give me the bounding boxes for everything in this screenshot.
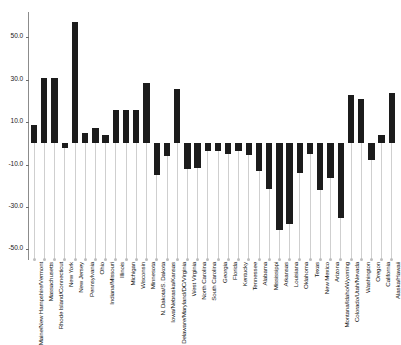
bar	[154, 143, 160, 175]
category-stem	[197, 168, 198, 260]
x-tick-label: Pennsylvania	[88, 262, 95, 297]
y-tick-label: 10.0	[11, 117, 23, 124]
category-stem-dot	[217, 258, 220, 261]
x-tick-label: Arizona	[333, 262, 340, 282]
category-stem	[95, 143, 96, 260]
y-tick-label: 30.0	[11, 75, 23, 82]
category-stem	[351, 143, 352, 260]
category-stem-dot	[186, 258, 189, 261]
category-stem	[167, 156, 168, 260]
x-tick-label: California	[384, 262, 391, 287]
bar	[338, 143, 344, 217]
category-stem	[330, 178, 331, 260]
y-tick-label: 50.0	[11, 32, 23, 39]
category-stem	[54, 143, 55, 260]
x-tick-label: Delaware/Maryland/DC/Virginia	[180, 262, 187, 344]
x-tick-label: Mississippi	[272, 262, 279, 290]
category-stem-dot	[125, 258, 128, 261]
x-tick-label: Alaska/Hawaii	[394, 262, 401, 299]
category-stem-dot	[155, 258, 158, 261]
x-tick-label: N. Dakota/S. Dakota	[159, 262, 166, 316]
category-stem-dot	[288, 258, 291, 261]
bar	[317, 143, 323, 190]
bar	[92, 128, 98, 144]
category-stem-dot	[298, 258, 301, 261]
category-stem	[228, 154, 229, 260]
x-tick-label: New York	[67, 262, 74, 287]
category-stem-dot	[278, 258, 281, 261]
bar	[113, 110, 119, 144]
category-stem-dot	[370, 258, 373, 261]
category-stem	[299, 173, 300, 260]
category-stem-dot	[176, 258, 179, 261]
category-stem-dot	[258, 258, 261, 261]
category-stem	[279, 230, 280, 260]
category-stem-dot	[74, 258, 77, 261]
category-stem	[115, 143, 116, 260]
x-tick-label: Alabama	[261, 262, 268, 285]
x-tick-label: Michigan	[129, 262, 136, 286]
category-stem-dot	[166, 258, 169, 261]
x-tick-label: Colorado/Utah/Nevada	[353, 262, 360, 322]
bar	[276, 143, 282, 230]
category-stem-dot	[390, 258, 393, 261]
category-stem-dot	[206, 258, 209, 261]
bar	[82, 133, 88, 144]
category-stem	[177, 143, 178, 260]
bar	[133, 110, 139, 144]
category-stem	[85, 143, 86, 260]
category-stem-dot	[33, 258, 36, 261]
bar	[297, 143, 303, 173]
x-tick-label: Wisconsin	[139, 262, 146, 289]
category-stem	[44, 143, 45, 260]
category-stem	[269, 189, 270, 260]
category-stem-dot	[227, 258, 230, 261]
bar	[235, 143, 241, 150]
x-tick-label: Ohio	[98, 262, 105, 274]
bar	[31, 125, 37, 143]
x-tick-label: Washington	[364, 262, 371, 293]
x-tick-label: Texas	[313, 262, 320, 277]
category-stem-dot	[350, 258, 353, 261]
category-stem-dot	[339, 258, 342, 261]
category-stem	[218, 151, 219, 260]
category-stem	[238, 151, 239, 260]
bar	[164, 143, 170, 156]
category-stem	[289, 224, 290, 260]
bar	[143, 83, 149, 143]
category-stem	[187, 169, 188, 260]
category-stem-dot	[135, 258, 138, 261]
category-stem	[75, 143, 76, 260]
category-stem-dot	[53, 258, 56, 261]
bar	[307, 143, 313, 154]
y-tick-label: -10.0	[8, 160, 23, 167]
bar	[327, 143, 333, 178]
category-stem-dot	[84, 258, 87, 261]
x-tick-label: Illinois	[118, 262, 125, 278]
bar	[358, 99, 364, 144]
bar	[174, 89, 180, 143]
y-tick-label: -30.0	[8, 202, 23, 209]
category-stem-dot	[43, 258, 46, 261]
category-stem	[320, 190, 321, 260]
category-stem	[340, 218, 341, 260]
bar	[41, 78, 47, 144]
x-tick-label: Louisiana	[292, 262, 299, 287]
category-stem-dot	[360, 258, 363, 261]
bar	[246, 143, 252, 155]
category-stem	[136, 143, 137, 260]
category-stem	[146, 143, 147, 260]
category-stem-dot	[196, 258, 199, 261]
category-stem-dot	[63, 258, 66, 261]
category-stem-dot	[104, 258, 107, 261]
category-stem-dot	[268, 258, 271, 261]
x-tick-label: Maine/New Hampshire/Vermont	[37, 262, 44, 345]
bar	[194, 143, 200, 167]
category-stem-dot	[329, 258, 332, 261]
category-stem	[391, 143, 392, 260]
x-tick-label: West Virginia	[190, 262, 197, 296]
bar	[102, 135, 108, 143]
bar	[215, 143, 221, 150]
category-stem	[310, 154, 311, 260]
